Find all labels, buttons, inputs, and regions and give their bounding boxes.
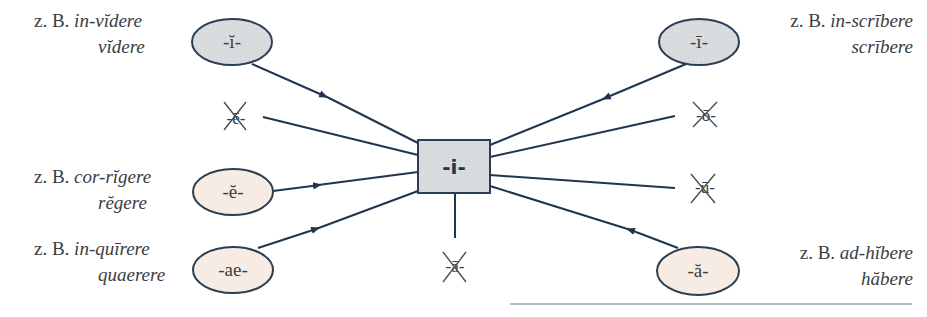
- excluded-node-u-long: -ū-: [691, 174, 715, 203]
- source-node-a-short: -ă-: [657, 247, 739, 295]
- node-label: -ĕ-: [222, 181, 243, 202]
- arrow-a-short: [626, 229, 636, 233]
- node-label: -ă-: [687, 260, 708, 281]
- arrow-e-short: [312, 185, 322, 187]
- excluded-node-e-long: -ē-: [224, 102, 246, 130]
- arrow-i-short: [252, 64, 320, 94]
- source-node-e-short: -ĕ-: [193, 169, 273, 215]
- arrow-i-long: [610, 64, 686, 96]
- source-node-i-long: -ī-: [659, 19, 739, 65]
- node-label: -ae-: [218, 259, 248, 280]
- node-label: -ī-: [690, 31, 708, 52]
- node-label: -ĭ-: [223, 31, 241, 52]
- excluded-node-a-long: -ā-: [443, 252, 466, 282]
- source-node-i-short: -ĭ-: [192, 19, 272, 65]
- vowel-weakening-diagram: -i- -ĭ- -ī- -ĕ- -ae- -ă- -ē- -ō- -ū-: [0, 0, 927, 317]
- center-node: -i-: [418, 140, 490, 193]
- line-o-long: [490, 116, 675, 157]
- arrow-ae: [310, 228, 320, 232]
- line-e-long: [263, 117, 418, 155]
- center-label: -i-: [442, 155, 465, 179]
- source-node-ae: -ae-: [193, 247, 273, 293]
- line-u-long: [490, 175, 675, 188]
- excluded-node-o-long: -ō-: [693, 102, 717, 127]
